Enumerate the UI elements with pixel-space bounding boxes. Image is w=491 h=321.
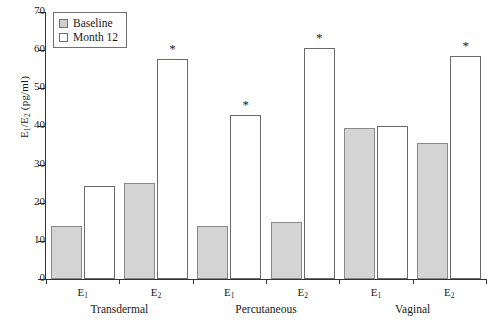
bar-month12 [84,186,115,279]
y-axis-tick-label: 70 [11,4,45,16]
x-axis-label: E1 [58,286,108,300]
y-axis-tick: 40 [0,126,45,127]
y-axis-tick-label: 20 [11,195,45,207]
legend: Baseline Month 12 [53,12,127,48]
legend-label-month12: Month 12 [73,31,118,43]
bar-month12 [304,48,335,279]
legend-label-baseline: Baseline [73,17,113,29]
y-axis-tick: 70 [0,12,45,13]
y-axis-tick: 50 [0,88,45,89]
y-axis-title: E1/E2 (pg/ml) [18,7,32,207]
legend-swatch-month12-icon [59,33,68,42]
plot-area: **** [46,12,486,279]
significance-asterisk: * [304,31,335,44]
bar-baseline [51,226,82,279]
bar-month12 [157,59,188,279]
y-axis-tick-label: 50 [11,80,45,92]
y-axis-tick: 60 [0,50,45,51]
x-axis-tick-mark [486,279,487,284]
y-axis-tick: 20 [0,203,45,204]
bar-baseline [271,222,302,279]
significance-asterisk: * [450,39,481,52]
legend-swatch-baseline-icon [59,19,68,28]
x-axis-tick-mark [193,279,194,284]
significance-asterisk: * [157,42,188,55]
x-axis-label: E2 [131,286,181,300]
legend-item-month12: Month 12 [59,30,118,44]
y-axis-tick-label: 10 [11,233,45,245]
x-axis-label: E2 [424,286,474,300]
bar-baseline [417,143,448,279]
x-axis-tick-mark [46,279,47,284]
x-axis-label: E2 [278,286,328,300]
y-axis-tick: 0 [0,279,45,280]
legend-item-baseline: Baseline [59,16,118,30]
y-axis-tick: 10 [0,241,45,242]
x-axis-tick-mark [339,279,340,284]
significance-asterisk: * [230,98,261,111]
chart-figure: E1/E2 (pg/ml) 010203040506070 **** E1E2E… [0,0,491,321]
y-axis-tick-label: 60 [11,42,45,54]
x-axis-group-label: Percutaneous [206,303,326,315]
bar-baseline [344,128,375,279]
bar-month12 [450,56,481,279]
x-axis-tick-mark [119,279,120,284]
bar-baseline [124,183,155,280]
y-axis-tick-label: 40 [11,118,45,130]
x-axis-group-label: Vaginal [353,303,473,315]
bar-month12 [230,115,261,279]
bar-month12 [377,126,408,279]
bar-baseline [197,226,228,279]
x-axis-tick-mark [413,279,414,284]
y-axis-tick-label: 0 [11,271,45,283]
x-axis-group-label: Transdermal [59,303,179,315]
x-axis-label: E1 [351,286,401,300]
y-axis-tick: 30 [0,165,45,166]
x-axis-tick-mark [266,279,267,284]
x-axis-label: E1 [204,286,254,300]
y-axis-tick-label: 30 [11,157,45,169]
